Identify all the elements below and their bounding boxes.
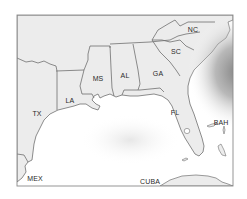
label-mexico: MEX — [27, 175, 42, 182]
label-florida: FL — [171, 109, 179, 116]
lake-okeechobee — [184, 128, 190, 133]
label-south-carolina: SC — [171, 48, 181, 55]
label-alabama: AL — [121, 72, 130, 79]
map-canvas — [0, 0, 247, 199]
label-louisiana: LA — [66, 97, 75, 104]
label-mississippi: MS — [93, 75, 104, 82]
label-texas: TX — [32, 110, 41, 117]
label-cuba: CUBA — [140, 178, 160, 185]
map-figure: TX LA MS AL GA SC NC FL BAH MEX CUBA — [0, 0, 247, 199]
gulf-shading — [80, 115, 180, 165]
label-north-carolina: NC — [188, 26, 198, 33]
label-georgia: GA — [153, 70, 163, 77]
label-bahamas: BAH — [214, 119, 229, 126]
